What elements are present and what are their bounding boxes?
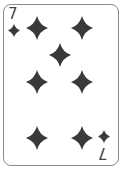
diamond-icon xyxy=(8,24,20,37)
diamond-icon xyxy=(98,130,110,143)
diamond-icon xyxy=(26,16,48,40)
diamond-icon xyxy=(26,126,48,150)
corner-rank-bottom-right: 7 xyxy=(98,145,108,160)
diamond-icon xyxy=(71,70,93,94)
corner-rank-top-left: 7 xyxy=(8,7,18,22)
diamond-icon xyxy=(26,70,48,94)
diamond-icon xyxy=(71,126,93,150)
diamond-icon xyxy=(49,43,71,67)
diamond-icon xyxy=(71,16,93,40)
